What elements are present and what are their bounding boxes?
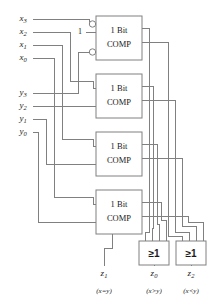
wire-y0 <box>33 132 93 222</box>
block3-output-wires <box>142 28 182 241</box>
comp-block-1[interactable]: 1 Bit COMP <box>96 132 142 176</box>
output-label-z0: z0 <box>150 268 159 279</box>
y-input-labels: y3 y2 y1 y0 <box>18 87 27 137</box>
comp-block-1-line1: 1 Bit <box>111 141 128 151</box>
output-labels: z1 (x=y) z0 (x>y) z2 (x<y) <box>96 268 199 295</box>
comp-block-3-line2: COMP <box>107 39 131 49</box>
input-label-y0: y0 <box>18 126 27 137</box>
comp-block-0-line2: COMP <box>107 213 131 223</box>
x-input-labels: x3 x2 x1 x0 <box>18 13 27 63</box>
comp-block-0-line1: 1 Bit <box>111 199 128 209</box>
block1-output-wires <box>142 144 196 241</box>
comp-block-3-line1: 1 Bit <box>111 25 128 35</box>
inverter-bubble-bottom <box>89 49 95 55</box>
wire-gt3 <box>142 28 149 241</box>
wire-x0 <box>33 58 93 197</box>
wire-lt3 <box>142 42 182 241</box>
comp-block-1-line2: COMP <box>107 155 131 165</box>
wire-x2 <box>33 32 93 81</box>
circuit-svg: 1 Bit COMP 1 Bit COMP 1 Bit COMP 1 Bit C… <box>0 0 212 303</box>
output-relation-z1: (x=y) <box>96 287 112 295</box>
comp-block-2-line1: 1 Bit <box>111 83 128 93</box>
wire-x1 <box>33 45 93 139</box>
comp-block-2[interactable]: 1 Bit COMP <box>96 74 142 118</box>
output-label-z1: z1 <box>100 268 108 279</box>
or-gate-gt-label: ≥1 <box>148 248 159 259</box>
comp-block-2-line2: COMP <box>107 97 131 107</box>
or-gate-less-than[interactable]: ≥1 <box>176 241 206 266</box>
input-label-y3: y3 <box>18 87 27 98</box>
wire-lt1 <box>142 158 196 241</box>
wire-gt1 <box>142 144 159 241</box>
input-label-x3: x3 <box>18 13 27 24</box>
output-relation-z0: (x>y) <box>146 287 162 295</box>
or-gate-lt-label: ≥1 <box>185 248 196 259</box>
input-label-x1: x1 <box>18 39 26 50</box>
wire-lt0 <box>142 216 203 241</box>
wire-z1 <box>104 234 112 266</box>
comp-block-0[interactable]: 1 Bit COMP <box>96 190 142 234</box>
x-input-wires <box>33 19 93 197</box>
inverter-bubble-top <box>89 21 95 27</box>
input-label-y2: y2 <box>18 100 27 111</box>
output-label-z2: z2 <box>187 268 196 279</box>
z1-output-wire <box>104 234 112 266</box>
comparator-diagram: 1 Bit COMP 1 Bit COMP 1 Bit COMP 1 Bit C… <box>0 0 212 303</box>
block0-output-wires <box>142 202 203 241</box>
wire-gt0 <box>142 202 166 241</box>
input-label-y1: y1 <box>18 113 26 124</box>
input-label-x0: x0 <box>18 52 27 63</box>
input-label-x2: x2 <box>18 26 27 37</box>
wire-y1 <box>33 119 93 164</box>
output-relation-z2: (x<y) <box>183 287 199 295</box>
comp-block-3[interactable]: 1 Bit COMP <box>89 16 142 60</box>
constant-one-label: 1 <box>78 27 82 36</box>
wire-gt2 <box>142 86 153 241</box>
or-gate-greater-than[interactable]: ≥1 <box>139 241 169 266</box>
